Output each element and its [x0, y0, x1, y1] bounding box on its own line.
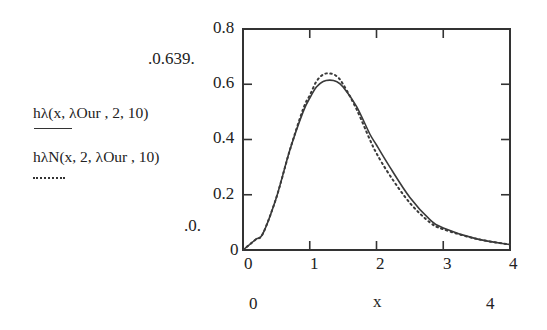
- axis-ticks: [243, 29, 510, 250]
- series-solid-line: [243, 80, 510, 250]
- plot-area[interactable]: [0, 0, 547, 330]
- plot-frame: [243, 29, 510, 250]
- series-dotted-line: [243, 73, 510, 250]
